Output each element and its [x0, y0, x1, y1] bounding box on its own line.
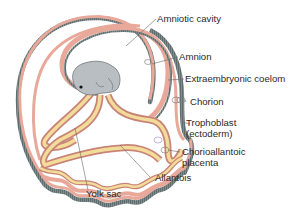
- label-yolk-sac: Yolk sac: [86, 189, 121, 200]
- label-chorioallantoic-placenta-sub: placenta: [182, 158, 218, 169]
- label-chorioallantoic-placenta: Chorioallantoic: [182, 147, 245, 158]
- label-trophoblast-sub: (ectoderm): [186, 129, 232, 140]
- label-extraembryonic-coelom: Extraembryonic coelom: [185, 74, 285, 85]
- embryo-figure: [73, 61, 120, 95]
- embryo-eye-icon: [79, 85, 82, 88]
- diagram-canvas: Amniotic cavity Amnion Extraembryonic co…: [0, 0, 300, 216]
- label-amniotic-cavity: Amniotic cavity: [157, 14, 221, 25]
- membranes-illustration: [0, 0, 300, 216]
- label-allantois: Allantois: [155, 173, 191, 184]
- label-amnion: Amnion: [179, 52, 212, 63]
- label-chorion: Chorion: [190, 97, 224, 108]
- label-trophoblast: Trophoblast: [186, 118, 236, 129]
